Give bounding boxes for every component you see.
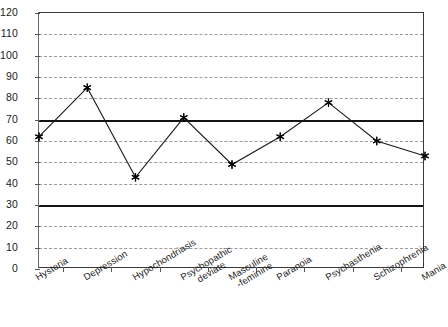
reference-line-30 xyxy=(39,205,423,207)
gridline xyxy=(39,184,423,185)
y-axis-tick-label: 110 xyxy=(0,27,18,39)
data-point-marker xyxy=(132,173,139,181)
y-axis-tick-label: 90 xyxy=(0,70,18,82)
y-tick-mark xyxy=(35,77,40,78)
y-axis-tick-label: 70 xyxy=(0,113,18,125)
y-axis-tick-label: 120 xyxy=(0,6,18,18)
gridline xyxy=(39,34,423,35)
y-tick-mark xyxy=(35,141,40,142)
y-axis-tick-label: 60 xyxy=(0,134,18,146)
y-axis-tick-label: 80 xyxy=(0,91,18,103)
series-line xyxy=(39,88,425,178)
y-tick-mark xyxy=(35,56,40,57)
data-point-marker xyxy=(277,133,284,141)
y-tick-mark xyxy=(35,248,40,249)
y-axis-tick-label: 50 xyxy=(0,155,18,167)
data-point-marker xyxy=(84,83,91,91)
y-tick-mark xyxy=(35,184,40,185)
y-tick-mark xyxy=(35,162,40,163)
y-axis-tick-label: 20 xyxy=(0,219,18,231)
y-tick-mark xyxy=(35,226,40,227)
y-tick-mark xyxy=(35,120,40,121)
data-point-marker xyxy=(35,133,42,141)
gridline xyxy=(39,56,423,57)
y-axis-tick-label: 30 xyxy=(0,198,18,210)
y-axis-tick-label: 100 xyxy=(0,49,18,61)
data-point-marker xyxy=(421,152,428,160)
y-axis-tick-label: 0 xyxy=(0,262,18,274)
gridline xyxy=(39,77,423,78)
data-point-marker xyxy=(325,98,332,106)
x-axis-label: Mania xyxy=(420,260,448,282)
gridline xyxy=(39,226,423,227)
gridline xyxy=(39,162,423,163)
y-axis-tick-label: 10 xyxy=(0,241,18,253)
y-axis-tick-label: 40 xyxy=(0,177,18,189)
y-tick-mark xyxy=(35,205,40,206)
gridline xyxy=(39,141,423,142)
gridline xyxy=(39,98,423,99)
y-tick-mark xyxy=(35,98,40,99)
y-tick-mark xyxy=(35,13,40,14)
y-tick-mark xyxy=(35,34,40,35)
plot-area xyxy=(38,12,424,268)
reference-line-70 xyxy=(39,120,423,122)
